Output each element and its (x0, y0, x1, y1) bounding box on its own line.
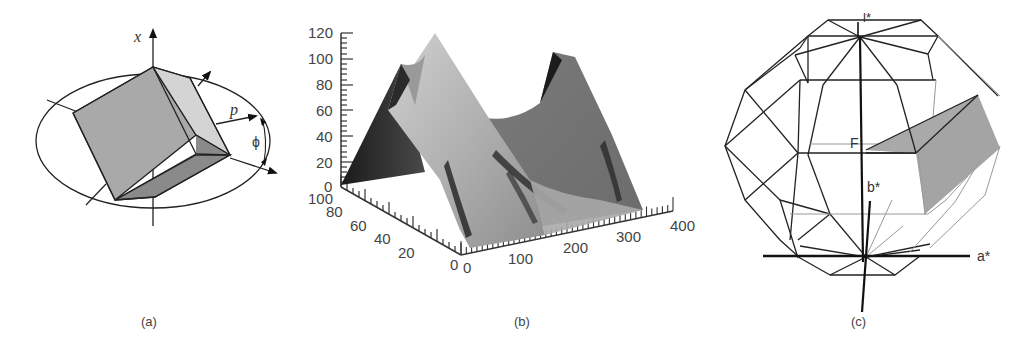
y-tick-20: 20 (398, 244, 415, 261)
panel-b: 120 100 80 60 40 20 0 100 80 60 40 20 0 … (300, 0, 680, 349)
y-tick-40: 40 (374, 230, 391, 247)
panel-c: l* F b* a* (c) (680, 0, 1032, 349)
surface-plot (300, 0, 680, 349)
x-tick-200: 200 (563, 239, 588, 256)
normal-arrow-right (230, 158, 276, 173)
z-tick-120: 120 (308, 24, 333, 41)
y-tick-80: 80 (326, 203, 343, 220)
z-tick-20: 20 (316, 154, 333, 171)
caption-a: (a) (141, 314, 157, 329)
x-tick-300: 300 (616, 228, 641, 245)
y-tick-60: 60 (350, 217, 367, 234)
phi-label: ϕ (252, 134, 260, 150)
x-tick-100: 100 (508, 250, 533, 267)
c-star-axis (860, 37, 863, 262)
z-tick-60: 60 (316, 102, 333, 119)
polyhedron-diagram: l* F b* a* (680, 0, 1032, 349)
x-axis-label: x (133, 28, 141, 45)
z-axis-ticks (341, 33, 353, 182)
top-axis-label: l* (863, 10, 871, 25)
caption-c: (c) (851, 314, 866, 329)
x-tick-0: 0 (463, 259, 471, 276)
p-label: p (229, 101, 238, 119)
panel-a: x p ϕ (a) (0, 0, 300, 349)
a-star-label: a* (977, 248, 991, 264)
z-tick-80: 80 (316, 76, 333, 93)
y-tick-0: 0 (450, 256, 458, 273)
b-star-label: b* (867, 179, 881, 195)
z-tick-100: 100 (308, 50, 333, 67)
caption-b: (b) (514, 314, 530, 329)
z-tick-40: 40 (316, 128, 333, 145)
point-F-label: F (850, 135, 859, 151)
cube-diagram: x p ϕ (0, 0, 300, 349)
